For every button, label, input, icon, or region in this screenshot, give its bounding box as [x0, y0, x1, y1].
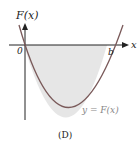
x-axis-label: x	[131, 39, 137, 50]
y-axis-label: F(x)	[15, 9, 38, 22]
origin-label: 0	[17, 46, 23, 56]
function-graph: F(x) x 0 b y = F(x) (D)	[0, 0, 140, 144]
root-b-label: b	[108, 47, 114, 57]
y-axis-arrow-icon	[22, 23, 28, 30]
caption: (D)	[58, 130, 72, 140]
x-axis-arrow-icon	[122, 42, 129, 48]
curve-label: y = F(x)	[81, 105, 119, 115]
